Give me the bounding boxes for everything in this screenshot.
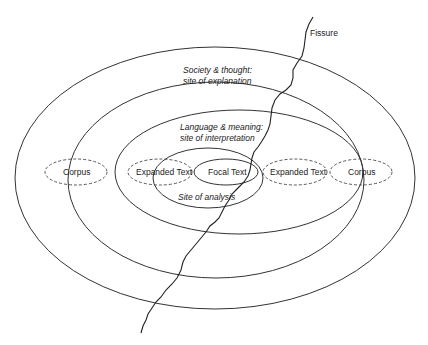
focal-text-label: Focal Text	[208, 167, 247, 177]
society-label-line2: site of explanation	[183, 76, 252, 86]
corpus-left-label: Corpus	[63, 167, 90, 177]
society-label-line1: Society & thought:	[183, 65, 253, 75]
society-thought-ring	[15, 47, 415, 309]
expanded-text-right-label: Expanded Text	[270, 167, 327, 177]
expanded-text-left-label: Expanded Text	[136, 167, 193, 177]
language-label-line1: Language & meaning:	[180, 122, 264, 132]
fissure-label: Fissure	[310, 28, 338, 38]
corpus-right-label: Corpus	[348, 167, 375, 177]
site-of-analysis-label: Site of analysis	[178, 192, 236, 202]
fissure-diagram: Fissure Society & thought: site of expla…	[0, 0, 428, 345]
language-label-line2: site of interpretation	[180, 133, 255, 143]
